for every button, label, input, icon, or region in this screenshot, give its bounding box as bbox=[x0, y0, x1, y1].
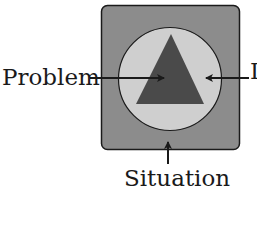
problem-label: Problem bbox=[2, 66, 100, 89]
i-label: I bbox=[250, 60, 257, 83]
situation-label: Situation bbox=[124, 167, 230, 190]
